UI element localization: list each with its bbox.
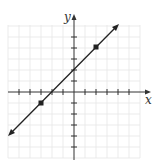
x-axis-label: x xyxy=(145,93,152,107)
data-point xyxy=(94,45,99,50)
coordinate-plane: y x xyxy=(0,0,161,166)
y-axis-label: y xyxy=(63,10,71,24)
axes xyxy=(8,20,148,160)
data-point xyxy=(39,101,44,106)
y-axis-arrow-icon xyxy=(72,14,77,20)
graph-line xyxy=(11,27,116,133)
